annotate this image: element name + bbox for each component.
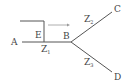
segment-z2-label: Z2	[84, 14, 93, 25]
segment-z1-label: Z1	[41, 44, 50, 55]
line-b-c	[71, 12, 112, 42]
node-e-label: E	[35, 30, 42, 40]
pipe-diagram: A E B C D Z1 Z2 Z3	[0, 0, 127, 84]
node-a-label: A	[10, 37, 18, 47]
node-b-label: B	[63, 31, 70, 41]
flow-arrow-icon	[48, 24, 70, 27]
node-d-label: D	[114, 72, 121, 82]
segment-z3-label: Z3	[84, 57, 93, 68]
node-c-label: C	[114, 4, 121, 14]
